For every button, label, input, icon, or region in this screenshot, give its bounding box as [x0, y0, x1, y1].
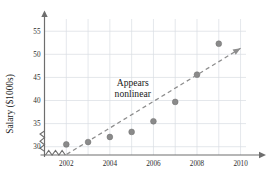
x-axis-arrowhead — [259, 152, 266, 158]
x-tick-label: 2002 — [59, 160, 74, 168]
y-tick-label: 45 — [33, 74, 41, 82]
data-point — [129, 129, 135, 135]
y-axis-break-icon — [40, 131, 45, 151]
scatter-chart: 303540455055 20022004200620082010 Salary… — [0, 0, 273, 180]
x-tick-label: 2008 — [190, 160, 205, 168]
y-tick-label: 55 — [33, 28, 41, 36]
y-tick-label: 30 — [33, 143, 41, 151]
y-tick-label: 50 — [33, 51, 41, 59]
trend-arrowhead — [233, 48, 241, 55]
y-axis-tick-labels: 303540455055 — [33, 28, 41, 151]
x-tick-label: 2006 — [146, 160, 161, 168]
annotation-line-1: Appears — [117, 77, 149, 88]
annotation-line-2: nonlinear — [115, 88, 152, 99]
data-point — [172, 99, 178, 105]
x-tick-label: 2004 — [103, 160, 118, 168]
y-axis-title: Salary ($1000s) — [5, 74, 16, 134]
chart-canvas: 303540455055 20022004200620082010 Salary… — [0, 0, 273, 180]
data-point — [151, 118, 157, 124]
axes — [40, 11, 266, 159]
data-point — [107, 134, 113, 140]
y-tick-label: 40 — [33, 97, 41, 105]
y-tick-label: 35 — [33, 120, 41, 128]
x-axis-break-icon — [46, 150, 66, 155]
data-point — [63, 141, 69, 147]
y-axis-arrowhead — [41, 11, 47, 18]
data-point — [216, 41, 222, 47]
x-axis-tick-labels: 20022004200620082010 — [59, 160, 248, 168]
x-tick-label: 2010 — [233, 160, 248, 168]
